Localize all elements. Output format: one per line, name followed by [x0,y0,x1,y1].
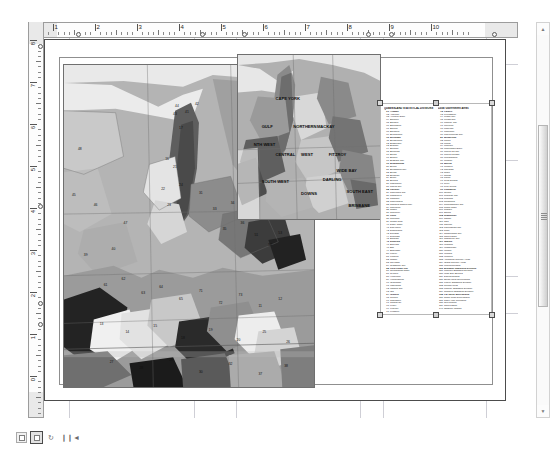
svg-text:12: 12 [278,297,282,301]
ruler-guide-marker[interactable] [38,322,43,327]
scroll-down-arrow[interactable]: ▼ [537,405,549,417]
ruler-tick-minor [38,56,41,57]
selection-handle-bottom-center[interactable] [433,312,439,318]
svg-text:47: 47 [124,221,128,225]
svg-text:23: 23 [167,203,171,207]
refresh-button[interactable]: ↻ [48,432,54,443]
ruler-tick-minor [158,30,159,35]
svg-text:36: 36 [241,221,245,225]
ruler-tick-minor [106,32,107,35]
svg-text:19: 19 [209,328,213,332]
ruler-tick-minor [90,32,91,35]
ruler-tick-minor [457,32,458,35]
ruler-tick-minor [38,77,41,78]
vertical-ruler[interactable]: 876543210 [28,22,44,418]
vertical-scrollbar[interactable]: ▲ ▼ [536,22,550,418]
ruler-tick-minor [38,255,41,256]
svg-text:CENTRAL: CENTRAL [275,152,295,157]
previous-button[interactable]: ◄ [73,432,80,443]
ruler-tick-minor [38,234,41,235]
ruler-tick-minor [132,32,133,35]
ruler-tick-minor [38,156,41,157]
ruler-guide-marker[interactable] [38,301,43,306]
horizontal-ruler[interactable]: 12345678910 [28,22,518,38]
ruler-label: 5 [30,168,37,171]
ruler-tick-minor [58,32,59,35]
layout-view-icon [34,435,40,441]
svg-text:39: 39 [84,253,88,257]
legend-frame[interactable]: QUEENSLAND STATISTICAL DIVISIONS01Aramac… [380,103,492,315]
ruler-tick-minor [38,72,41,73]
svg-text:42: 42 [195,102,199,106]
svg-text:52: 52 [268,243,272,247]
ruler-label: 8 [349,24,352,31]
ruler-tick-minor [36,355,41,356]
ruler-tick-minor [216,32,217,35]
svg-text:11: 11 [258,304,262,308]
ruler-tick-minor [38,402,41,403]
ruler-tick-minor [363,32,364,35]
ruler-tick-minor [38,182,41,183]
svg-text:13: 13 [100,322,104,326]
pause-button[interactable]: ❙❙ [61,432,73,443]
ruler-tick-minor [36,61,41,62]
legend-row-label: Offshore Islands [444,308,489,311]
ruler-tick-minor [232,32,233,35]
ruler-tick-major [30,292,37,293]
ruler-tick-minor [289,32,290,35]
ruler-tick-minor [36,313,41,314]
ruler-tick-minor [36,397,41,398]
selection-handle-top-center[interactable] [433,100,439,106]
ruler-tick-minor [337,32,338,35]
ruler-tick-minor [38,171,41,172]
selection-handle-top-left[interactable] [377,100,383,106]
svg-text:72: 72 [219,301,223,305]
svg-text:18: 18 [181,336,185,340]
ruler-guide-marker[interactable] [492,32,497,37]
vertical-scroll-thumb[interactable] [538,125,548,306]
layout-canvas[interactable]: 4442 4341 17 1621 2224 2331 3334 3536 51… [44,38,518,418]
ruler-guide-marker[interactable] [366,32,371,37]
svg-text:15: 15 [153,324,157,328]
selection-handle-bottom-left[interactable] [377,312,383,318]
ruler-tick-minor [85,32,86,35]
ruler-tick-minor [38,329,41,330]
ruler-label: 4 [181,24,184,31]
status-bar: ↻ ❙❙ ◄ [0,426,552,450]
svg-text:51: 51 [254,233,258,237]
ruler-label: 7 [30,84,37,87]
ruler-tick-minor [38,198,41,199]
svg-text:73: 73 [239,293,243,297]
ruler-tick-minor [38,282,41,283]
ruler-tick-minor [226,32,227,35]
ruler-label: 3 [30,252,37,255]
scroll-up-arrow[interactable]: ▲ [537,23,549,35]
scroll-grip-line [541,217,547,218]
selection-handle-bottom-right[interactable] [489,312,495,318]
page-outline[interactable]: 4442 4341 17 1621 2224 2331 3334 3536 51… [44,39,506,401]
ruler-tick-minor [36,145,41,146]
svg-text:34: 34 [231,201,235,205]
ruler-tick-minor [38,93,41,94]
layout-view-button[interactable] [30,431,43,444]
ruler-tick-minor [142,32,143,35]
ruler-tick-minor [38,360,41,361]
selection-handle-top-right[interactable] [489,100,495,106]
ruler-guide-marker[interactable] [38,204,43,209]
ruler-tick-minor [247,32,248,35]
svg-text:DARLING: DARLING [323,177,342,182]
ruler-tick-minor [295,32,296,35]
ruler-tick-minor [321,32,322,35]
ruler-tick-minor [38,266,41,267]
inset-map-frame[interactable]: CAPE YORK GULF NTH WEST NORTHERN MACKAY … [237,54,381,220]
ruler-tick-minor [36,103,41,104]
scroll-grip-line [541,215,547,216]
svg-text:35: 35 [223,227,227,231]
legend-columns: QUEENSLAND STATISTICAL DIVISIONS01Aramac… [381,104,491,315]
ruler-tick-minor [38,135,41,136]
data-view-button[interactable] [16,432,27,443]
ruler-tick-minor [36,271,41,272]
svg-text:BRISBANE: BRISBANE [348,203,370,208]
ruler-tick-minor [468,32,469,35]
ruler-tick-minor [153,32,154,35]
